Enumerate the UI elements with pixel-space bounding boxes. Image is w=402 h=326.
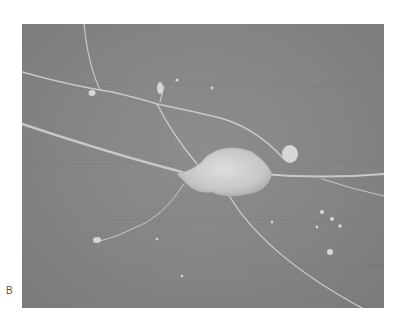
panel-label: B: [6, 285, 13, 296]
cell-body: [177, 148, 272, 196]
micrograph-image: [22, 24, 384, 308]
neuron-illustration: [22, 24, 384, 308]
